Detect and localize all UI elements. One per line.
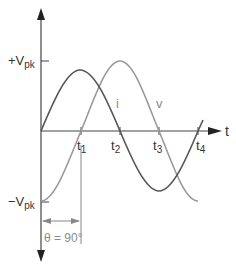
t-axis-label: t [225, 124, 229, 138]
vpk-neg-label: −Vpk [8, 195, 35, 211]
t-axis-arrow-icon [208, 127, 222, 135]
current-curve-label: i [116, 97, 119, 110]
y-axis-arrow-down-icon [37, 250, 45, 262]
theta-arrow-right-icon [71, 218, 80, 224]
vpk-pos-label: +Vpk [8, 54, 35, 70]
phase-diagram [0, 0, 236, 269]
t2-label: t2 [111, 139, 120, 155]
t4-label: t4 [196, 139, 205, 155]
y-axis-arrow-up-icon [37, 8, 45, 20]
voltage-curve-label: v [156, 97, 163, 110]
theta-label: θ = 90° [44, 232, 83, 244]
t1-label: t1 [77, 139, 86, 155]
t3-label: t3 [153, 139, 162, 155]
theta-arrow-left-icon [42, 218, 51, 224]
